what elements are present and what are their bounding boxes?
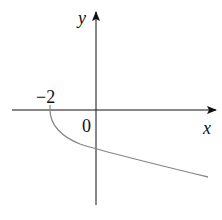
graph: y x −2 0 [0,0,222,220]
origin-label: 0 [82,116,91,136]
tick-label-neg2: −2 [36,87,55,107]
curve [50,110,208,177]
y-axis-label: y [76,8,86,28]
x-axis-label: x [202,118,211,138]
